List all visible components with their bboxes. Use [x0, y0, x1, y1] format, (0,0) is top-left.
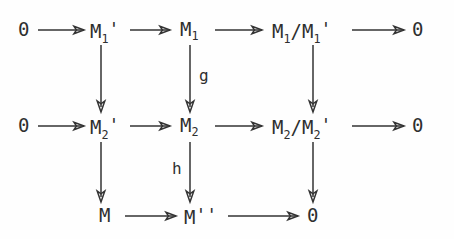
- arrow-r2-zero-to-M2prime: [38, 122, 84, 130]
- map-label-g: g: [199, 68, 209, 84]
- node-row2-zero-left: 0: [18, 116, 29, 135]
- node-row1-M1-prime: M1': [90, 20, 119, 45]
- arrow-r3-Mdoubleprime-to-zero: [228, 212, 298, 220]
- arrow-col2-row2-to-row3-h: [186, 142, 194, 202]
- arrow-r1-M1-to-quotient: [215, 26, 262, 34]
- node-row3-zero: 0: [307, 206, 318, 225]
- arrow-r1-M1prime-to-M1: [130, 26, 170, 34]
- arrow-r1-quotient-to-zero: [352, 26, 404, 34]
- arrow-col2-row1-to-row2-g: [186, 45, 194, 112]
- node-row2-M2-prime: M2': [90, 116, 119, 141]
- arrow-col1-row1-to-row2: [97, 45, 105, 112]
- arrow-r1-zero-to-M1prime: [38, 26, 84, 34]
- map-label-h: h: [172, 161, 182, 177]
- node-row3-M: M: [99, 206, 110, 225]
- arrow-r3-M-to-Mdoubleprime: [125, 212, 176, 220]
- arrow-r2-M2-to-quotient: [215, 122, 262, 130]
- node-row1-zero-right: 0: [412, 20, 423, 39]
- node-row2-zero-right: 0: [412, 116, 423, 135]
- arrow-layer: [0, 0, 454, 239]
- node-row1-M1: M1: [180, 20, 199, 43]
- arrow-col3-row2-to-row3: [309, 142, 317, 202]
- arrow-r2-quotient-to-zero: [352, 122, 404, 130]
- node-row1-M1-mod-M1prime: M1/M1': [272, 20, 331, 45]
- arrow-col3-row1-to-row2: [309, 45, 317, 112]
- node-row3-M-double-prime: M'': [184, 206, 217, 227]
- arrow-r2-M2prime-to-M2: [130, 122, 170, 130]
- node-row2-M2: M2: [180, 116, 199, 139]
- node-row1-zero-left: 0: [18, 20, 29, 39]
- node-row2-M2-mod-M2prime: M2/M2': [272, 116, 331, 141]
- diagram-canvas: 0 M1' M1 M1/M1' 0 0 M2' M2 M2/M2' 0 M M'…: [0, 0, 454, 239]
- arrow-col1-row2-to-row3: [97, 142, 105, 202]
